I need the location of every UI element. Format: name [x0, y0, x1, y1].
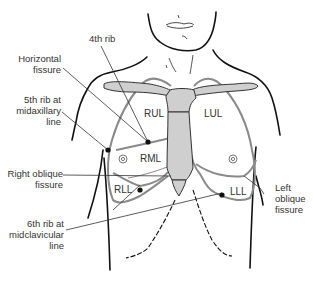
label-line: 6th rib at	[6, 218, 64, 229]
rib5-midaxillary-dot	[105, 147, 110, 152]
rib4-dot	[145, 139, 150, 144]
lobe-rul: RUL	[144, 108, 164, 119]
label-line: midaxillary	[12, 105, 61, 116]
right-nipple-icon	[119, 155, 127, 163]
lobe-rml: RML	[140, 153, 161, 164]
horizontal-fissure-line	[116, 138, 170, 150]
right-clavicle	[104, 82, 170, 96]
label-line: Left	[275, 182, 306, 193]
left-clavicle	[192, 83, 258, 96]
sternum	[166, 89, 196, 197]
mouth-icon	[166, 15, 194, 39]
neck-lines	[166, 55, 193, 74]
label-5th-rib-midaxillary: 5th rib at midaxillary line	[12, 94, 61, 127]
label-4th-rib: 4th rib	[89, 33, 115, 44]
label-line: midclavicular	[6, 229, 64, 240]
lobe-lll: LLL	[230, 186, 247, 197]
label-line: 5th rib at	[12, 94, 61, 105]
left-oblique-fissure-line	[196, 160, 256, 177]
label-horizontal-fissure: Horizontal fissure	[18, 53, 61, 75]
ribcage-outline	[126, 190, 232, 258]
rib6-right-dot	[137, 187, 142, 192]
label-line: fissure	[18, 64, 61, 75]
label-line: Right oblique	[4, 168, 63, 179]
head-outline	[148, 12, 216, 51]
left-lung-outline	[190, 79, 255, 200]
label-line: line	[12, 116, 61, 127]
lobe-lul: LUL	[204, 108, 222, 119]
label-line: Horizontal	[18, 53, 61, 64]
label-left-oblique-fissure: Left oblique fissure	[275, 182, 306, 215]
left-nipple-icon	[229, 155, 237, 163]
label-line: fissure	[275, 204, 306, 215]
lobe-rll: RLL	[114, 184, 132, 195]
label-6th-rib-midclavicular: 6th rib at midclavicular line	[6, 218, 64, 251]
rib6-left-dot	[219, 192, 224, 197]
label-right-oblique-fissure: Right oblique fissure	[4, 168, 63, 190]
label-line: oblique	[275, 193, 306, 204]
label-line: line	[6, 240, 64, 251]
label-line: fissure	[4, 179, 63, 190]
